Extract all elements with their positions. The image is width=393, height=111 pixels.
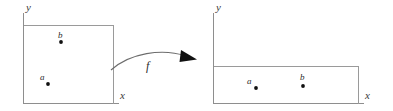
left-point-b-dot: [59, 40, 63, 44]
figure-canvas: y x b a f y x a b: [0, 0, 393, 111]
right-y-axis-label: y: [216, 2, 221, 13]
left-x-axis-label: x: [120, 90, 125, 101]
left-point-b-label: b: [58, 31, 63, 40]
mapping-arrow-group: [111, 50, 197, 70]
right-panel-group: [213, 13, 364, 104]
left-y-axis-label: y: [26, 2, 31, 13]
right-point-b-dot: [301, 84, 305, 88]
right-point-b-label: b: [300, 73, 305, 82]
right-point-a-dot: [254, 86, 258, 90]
mapping-function-label: f: [146, 60, 149, 72]
mapping-arrow-head: [180, 50, 198, 62]
right-point-a-label: a: [247, 77, 252, 86]
diagram-vector-layer: [0, 0, 393, 111]
left-panel-group: [23, 13, 119, 104]
left-point-a-label: a: [40, 73, 45, 82]
left-region-rectangle: [24, 26, 114, 104]
right-region-rectangle: [214, 67, 359, 104]
left-point-a-dot: [46, 82, 50, 86]
right-x-axis-label: x: [365, 90, 370, 101]
